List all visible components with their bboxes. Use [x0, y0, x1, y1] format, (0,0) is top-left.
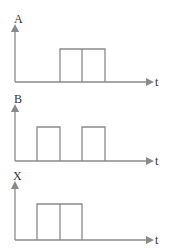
- time-label-x: t: [155, 234, 158, 246]
- panel-x: [15, 183, 152, 240]
- signal-b-waveform: [37, 127, 60, 161]
- signal-label-b: B: [14, 93, 22, 105]
- panel-b: [15, 106, 152, 161]
- timing-diagram: [0, 0, 170, 252]
- time-label-b: t: [155, 155, 158, 167]
- signal-label-x: X: [13, 170, 22, 182]
- time-label-a: t: [155, 76, 158, 88]
- panel-a: [15, 26, 152, 82]
- signal-b-waveform: [82, 127, 105, 161]
- signal-label-a: A: [14, 13, 23, 25]
